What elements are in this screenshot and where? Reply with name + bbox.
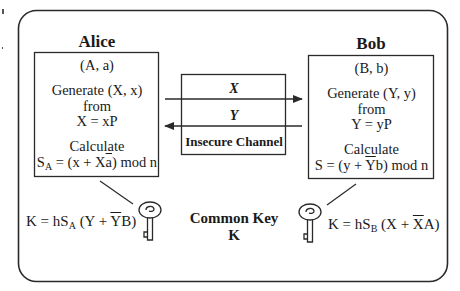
formula-part: S xyxy=(315,157,323,173)
bob-keypair: (B, b) xyxy=(309,61,434,76)
channel-message-y: Y xyxy=(182,109,286,123)
formula-part: (Y + xyxy=(76,213,110,229)
formula-part: A) xyxy=(424,216,440,232)
formula-part: K = hS xyxy=(26,213,69,229)
alice-generate-line: from xyxy=(35,99,159,114)
channel-message-x: X xyxy=(182,82,286,96)
formula-part: B) xyxy=(121,213,136,229)
formula-overline: Y xyxy=(110,213,121,229)
formula-overline: X xyxy=(413,216,424,232)
common-key-symbol: K xyxy=(184,227,284,244)
alice-calculate-label: Calculate xyxy=(35,139,159,154)
alice-generate-line: X = xP xyxy=(35,114,159,129)
alice-keypair: (A, a) xyxy=(35,58,159,73)
bob-secret-formula: S = (y + Yb) mod n xyxy=(309,158,434,173)
key-icon xyxy=(299,204,321,242)
bob-key-formula: K = hSB (X + XA) xyxy=(328,217,440,232)
formula-part: = (y + xyxy=(323,157,365,173)
formula-part: (X + xyxy=(377,216,413,232)
formula-part: S xyxy=(37,154,45,170)
bob-calculate-label: Calculate xyxy=(309,142,434,157)
insecure-channel-label: Insecure Channel xyxy=(182,135,286,148)
formula-part: ) mod n xyxy=(112,154,157,170)
formula-part: = (x + X xyxy=(52,154,105,170)
formula-part: K = hS xyxy=(328,216,371,232)
bob-generate-line: Y = yP xyxy=(309,117,434,132)
formula-subscript: A xyxy=(69,220,76,231)
alice-generate-line: Generate (X, x) xyxy=(35,83,159,98)
alice-title: Alice xyxy=(47,33,147,50)
bob-key-connector xyxy=(327,184,356,205)
formula-overline: Y xyxy=(365,157,375,173)
bob-title: Bob xyxy=(321,35,421,52)
alice-key-formula: K = hSA (Y + YB) xyxy=(26,214,136,229)
bob-generate-line: Generate (Y, y) xyxy=(309,86,434,101)
bob-generate-line: from xyxy=(309,102,434,117)
key-icon xyxy=(139,202,161,240)
alice-key-connector xyxy=(100,181,133,204)
common-key-label: Common Key xyxy=(184,210,284,227)
alice-secret-formula: SA = (x + Xa) mod n xyxy=(35,155,159,170)
formula-part: b) mod n xyxy=(376,157,428,173)
